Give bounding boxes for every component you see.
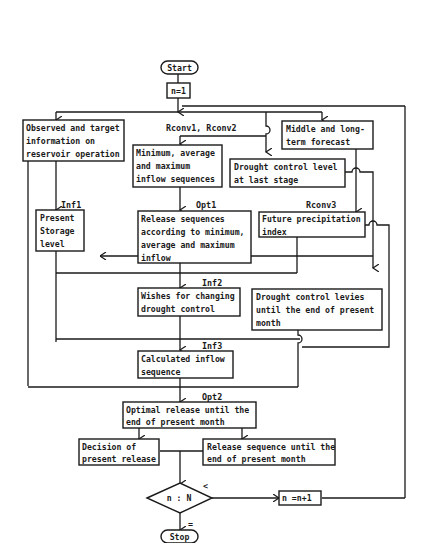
rconv12-label: Rconv1, Rconv2: [166, 123, 237, 133]
inf2-label: Inf2: [202, 278, 222, 288]
svg-text:information on: information on: [26, 136, 95, 146]
svg-text:Start: Start: [167, 63, 192, 73]
wishes-node: Wishes for changing drought control: [138, 288, 240, 316]
svg-text:sequence: sequence: [141, 367, 181, 377]
calculated-inflow-node: Calculated inflow sequence: [138, 351, 233, 378]
drought-levels-node: Drought control levies until the end of …: [252, 289, 382, 330]
svg-text:end of present month: end of present month: [207, 454, 306, 464]
decision-node: Decision of present release: [79, 439, 159, 465]
precipitation-node: Future precipitation index: [259, 212, 365, 237]
inflow-sequences-node: Minimum, average and maximum inflow sequ…: [133, 145, 222, 187]
forecast-node: Middle and long- term forecast: [282, 121, 373, 149]
opt2-label: Opt2: [202, 392, 222, 402]
svg-text:average and maximum: average and maximum: [141, 240, 235, 250]
svg-text:Observed and target: Observed and target: [26, 123, 120, 133]
opt1-label: Opt1: [196, 200, 216, 210]
svg-text:Drought control levies: Drought control levies: [256, 292, 365, 302]
svg-text:Decision of: Decision of: [82, 442, 136, 452]
svg-text:month: month: [256, 318, 281, 328]
svg-text:term forecast: term forecast: [286, 137, 350, 147]
release-month-node: Release sequence until the end of presen…: [203, 439, 335, 465]
svg-text:and maximum: and maximum: [136, 161, 190, 171]
svg-text:n =n+1: n =n+1: [282, 493, 312, 503]
svg-text:n=1: n=1: [171, 86, 186, 96]
svg-text:Future precipitation: Future precipitation: [262, 214, 361, 224]
svg-text:<: <: [203, 481, 208, 491]
svg-text:inflow sequences: inflow sequences: [136, 174, 215, 184]
drought-last-node: Drought control level at last stage: [230, 159, 345, 187]
svg-text:Calculated inflow: Calculated inflow: [141, 354, 225, 364]
increment-node: n =n+1: [279, 491, 321, 505]
optimal-release-node: Optimal release until the end of present…: [123, 402, 256, 428]
svg-text:Minimum, average: Minimum, average: [136, 148, 215, 158]
svg-text:n : N: n : N: [167, 493, 192, 503]
svg-text:Stop: Stop: [170, 532, 190, 542]
svg-text:present release: present release: [82, 454, 156, 464]
inf3-label: Inf3: [202, 341, 222, 351]
rconv3-label: Rconv3: [306, 200, 336, 210]
svg-text:according to minimum,: according to minimum,: [141, 227, 245, 237]
svg-text:Release sequences: Release sequences: [141, 214, 225, 224]
svg-text:drought control: drought control: [141, 304, 215, 314]
svg-text:Present: Present: [40, 213, 75, 223]
svg-text:at last stage: at last stage: [234, 175, 298, 185]
svg-text:Wishes for changing: Wishes for changing: [141, 291, 235, 301]
svg-text:Optimal release until the: Optimal release until the: [126, 405, 249, 415]
svg-text:Release sequence until the: Release sequence until the: [207, 442, 335, 452]
svg-text:Middle and long-: Middle and long-: [286, 124, 365, 134]
start-node: Start: [161, 61, 198, 74]
svg-text:Drought control level: Drought control level: [234, 162, 338, 172]
svg-text:reservoir operation: reservoir operation: [26, 149, 120, 159]
inf1-label: Inf1: [61, 200, 81, 210]
svg-text:level: level: [40, 239, 65, 249]
release-sequences-node: Release sequences according to minimum, …: [138, 211, 251, 263]
storage-node: Present Storage level: [36, 210, 84, 251]
svg-text:until the end of present: until the end of present: [256, 305, 374, 315]
observed-node: Observed and target information on reser…: [23, 120, 124, 161]
svg-text:end of present month: end of present month: [126, 417, 225, 427]
svg-text:inflow: inflow: [141, 253, 171, 263]
svg-text:Storage: Storage: [40, 226, 75, 236]
stop-node: Stop: [161, 530, 198, 543]
init-node: n=1: [167, 83, 190, 98]
svg-text:=: =: [188, 519, 193, 529]
flowchart: Start n=1 Observed and target informatio…: [0, 0, 427, 543]
svg-text:index: index: [262, 227, 287, 237]
